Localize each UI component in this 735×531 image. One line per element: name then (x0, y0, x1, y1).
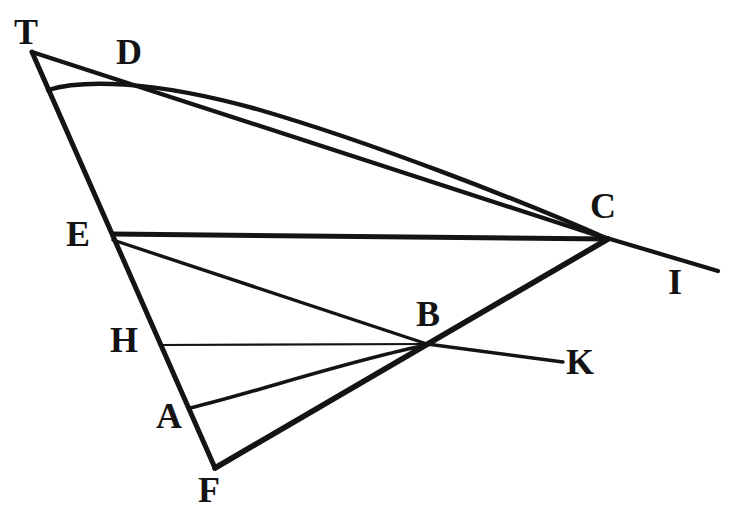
curve-tdc (48, 84, 608, 239)
line-e-c (113, 234, 608, 239)
point-label-b: B (416, 296, 440, 332)
point-label-c: C (590, 188, 616, 224)
point-label-e: E (66, 216, 90, 252)
line-h-b (160, 344, 427, 345)
figure-canvas: TDCEIBHKAF (0, 0, 735, 531)
point-label-f: F (198, 472, 220, 508)
point-label-d: D (116, 34, 142, 70)
line-b-k (427, 344, 563, 362)
line-t-c (32, 52, 608, 239)
line-c-i (600, 236, 718, 271)
line-e-b (113, 240, 427, 344)
diagram-svg (0, 0, 735, 531)
line-f-c (215, 239, 608, 468)
point-label-a: A (156, 398, 182, 434)
point-label-t: T (14, 14, 38, 50)
point-label-h: H (110, 322, 138, 358)
line-segments-group (32, 52, 718, 468)
point-label-i: I (668, 264, 682, 300)
line-t-f (32, 52, 215, 468)
curve-ab (190, 345, 427, 408)
point-label-k: K (566, 344, 594, 380)
